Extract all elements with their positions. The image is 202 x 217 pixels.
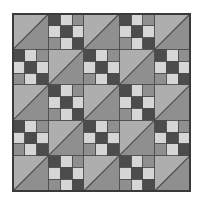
quilt-svg <box>0 0 202 217</box>
nine-patch-cell <box>119 108 131 120</box>
nine-patch-cell <box>119 14 131 26</box>
nine-patch-cell <box>60 97 72 109</box>
nine-patch-cell <box>13 49 25 61</box>
nine-patch-cell <box>60 156 72 168</box>
nine-patch-cell <box>131 179 143 191</box>
nine-patch-block <box>119 85 154 120</box>
nine-patch-cell <box>166 144 178 156</box>
nine-patch-cell <box>48 26 60 38</box>
nine-patch-cell <box>119 97 131 109</box>
nine-patch-cell <box>84 73 96 85</box>
nine-patch-cell <box>48 167 60 179</box>
triangle-block <box>84 156 119 191</box>
nine-patch-cell <box>155 120 167 132</box>
nine-patch-cell <box>96 120 108 132</box>
nine-patch-block <box>155 49 190 84</box>
nine-patch-cell <box>25 61 37 73</box>
nine-patch-cell <box>131 26 143 38</box>
triangle-block <box>84 14 119 49</box>
nine-patch-block <box>84 49 119 84</box>
nine-patch-cell <box>13 144 25 156</box>
nine-patch-cell <box>60 179 72 191</box>
nine-patch-cell <box>60 85 72 97</box>
nine-patch-cell <box>96 49 108 61</box>
nine-patch-cell <box>48 14 60 26</box>
nine-patch-cell <box>37 120 49 132</box>
nine-patch-cell <box>107 144 119 156</box>
nine-patch-cell <box>60 167 72 179</box>
nine-patch-cell <box>37 49 49 61</box>
triangle-block <box>155 85 190 120</box>
nine-patch-cell <box>119 179 131 191</box>
nine-patch-cell <box>72 167 84 179</box>
nine-patch-cell <box>72 108 84 120</box>
nine-patch-cell <box>60 38 72 50</box>
triangle-block <box>13 156 48 191</box>
nine-patch-cell <box>143 26 155 38</box>
nine-patch-cell <box>25 120 37 132</box>
nine-patch-block <box>48 156 83 191</box>
nine-patch-cell <box>143 85 155 97</box>
triangle-block <box>13 14 48 49</box>
nine-patch-block <box>48 14 83 49</box>
nine-patch-cell <box>166 132 178 144</box>
nine-patch-cell <box>178 73 190 85</box>
nine-patch-cell <box>48 108 60 120</box>
nine-patch-cell <box>25 73 37 85</box>
triangle-block <box>13 85 48 120</box>
nine-patch-cell <box>13 73 25 85</box>
nine-patch-cell <box>37 61 49 73</box>
nine-patch-cell <box>119 167 131 179</box>
triangle-block <box>155 14 190 49</box>
nine-patch-block <box>155 120 190 155</box>
nine-patch-cell <box>84 120 96 132</box>
nine-patch-cell <box>155 61 167 73</box>
triangle-block <box>119 120 154 155</box>
nine-patch-cell <box>25 132 37 144</box>
nine-patch-cell <box>119 26 131 38</box>
nine-patch-cell <box>96 61 108 73</box>
nine-patch-cell <box>178 132 190 144</box>
nine-patch-cell <box>107 73 119 85</box>
nine-patch-cell <box>131 14 143 26</box>
nine-patch-cell <box>131 156 143 168</box>
nine-patch-cell <box>84 132 96 144</box>
nine-patch-cell <box>143 14 155 26</box>
triangle-block <box>84 85 119 120</box>
nine-patch-block <box>119 156 154 191</box>
nine-patch-cell <box>96 73 108 85</box>
nine-patch-cell <box>143 156 155 168</box>
nine-patch-cell <box>155 144 167 156</box>
nine-patch-cell <box>48 85 60 97</box>
nine-patch-cell <box>60 108 72 120</box>
nine-patch-cell <box>107 61 119 73</box>
triangle-block <box>48 120 83 155</box>
nine-patch-cell <box>72 14 84 26</box>
nine-patch-block <box>13 120 48 155</box>
nine-patch-cell <box>119 85 131 97</box>
nine-patch-cell <box>13 120 25 132</box>
nine-patch-cell <box>155 132 167 144</box>
nine-patch-cell <box>72 156 84 168</box>
nine-patch-cell <box>143 38 155 50</box>
nine-patch-cell <box>13 132 25 144</box>
nine-patch-cell <box>143 97 155 109</box>
nine-patch-cell <box>143 167 155 179</box>
nine-patch-cell <box>96 144 108 156</box>
nine-patch-cell <box>25 49 37 61</box>
nine-patch-cell <box>166 61 178 73</box>
nine-patch-block <box>48 85 83 120</box>
nine-patch-cell <box>131 167 143 179</box>
nine-patch-cell <box>131 108 143 120</box>
triangle-block <box>48 49 83 84</box>
nine-patch-cell <box>48 97 60 109</box>
nine-patch-cell <box>166 73 178 85</box>
triangle-block <box>119 49 154 84</box>
nine-patch-cell <box>131 97 143 109</box>
nine-patch-cell <box>178 144 190 156</box>
nine-patch-cell <box>155 49 167 61</box>
nine-patch-cell <box>178 61 190 73</box>
quilt-figure <box>0 0 202 217</box>
nine-patch-cell <box>72 85 84 97</box>
nine-patch-cell <box>131 85 143 97</box>
